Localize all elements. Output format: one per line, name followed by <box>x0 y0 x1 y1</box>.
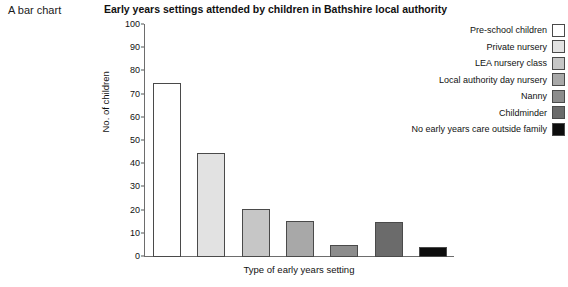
y-tick-label: 10 <box>130 228 140 237</box>
legend-item: Private nursery <box>360 39 565 56</box>
y-tick-label: 40 <box>130 159 140 168</box>
legend-item: No early years care outside family <box>360 121 565 138</box>
bar <box>330 245 358 257</box>
bar <box>197 153 225 257</box>
bar <box>242 209 270 257</box>
y-tick-label: 0 <box>135 252 140 261</box>
y-tick-label: 90 <box>130 43 140 52</box>
legend-item: Local authority day nursery <box>360 72 565 89</box>
legend-item-label: Pre-school children <box>470 25 552 35</box>
legend-item-label: LEA nursery class <box>475 58 552 68</box>
chart-title: Early years settings attended by childre… <box>104 3 447 15</box>
legend-color-swatch <box>552 73 565 86</box>
y-tick-label: 50 <box>130 136 140 145</box>
legend-color-swatch <box>552 57 565 70</box>
legend-color-swatch <box>552 24 565 37</box>
y-tick-label: 30 <box>130 182 140 191</box>
legend-item: LEA nursery class <box>360 55 565 72</box>
y-tick-label: 100 <box>125 20 140 29</box>
legend-color-swatch <box>552 123 565 136</box>
figure-caption: A bar chart <box>8 4 61 16</box>
legend-item-label: Local authority day nursery <box>439 75 552 85</box>
y-tick-label: 80 <box>130 66 140 75</box>
y-tick-label: 20 <box>130 205 140 214</box>
legend-item: Pre-school children <box>360 22 565 39</box>
y-axis-label: No. of children <box>100 119 111 133</box>
legend-color-swatch <box>552 40 565 53</box>
bar <box>419 247 447 257</box>
x-axis-label: Type of early years setting <box>144 264 454 275</box>
bar <box>153 83 181 257</box>
y-tick-label: 70 <box>130 89 140 98</box>
legend-color-swatch <box>552 90 565 103</box>
y-axis-ticks: 0102030405060708090100 <box>118 24 144 274</box>
legend-item: Childminder <box>360 105 565 122</box>
y-tick-label: 60 <box>130 112 140 121</box>
bar <box>286 221 314 257</box>
legend-item-label: Nanny <box>521 91 552 101</box>
legend-item: Nanny <box>360 88 565 105</box>
legend-item-label: No early years care outside family <box>411 124 552 134</box>
bar <box>375 222 403 257</box>
legend-item-label: Private nursery <box>486 42 552 52</box>
chart-page: A bar chart Early years settings attende… <box>0 0 568 287</box>
chart-legend: Pre-school childrenPrivate nurseryLEA nu… <box>360 22 565 138</box>
legend-color-swatch <box>552 106 565 119</box>
legend-item-label: Childminder <box>499 108 552 118</box>
